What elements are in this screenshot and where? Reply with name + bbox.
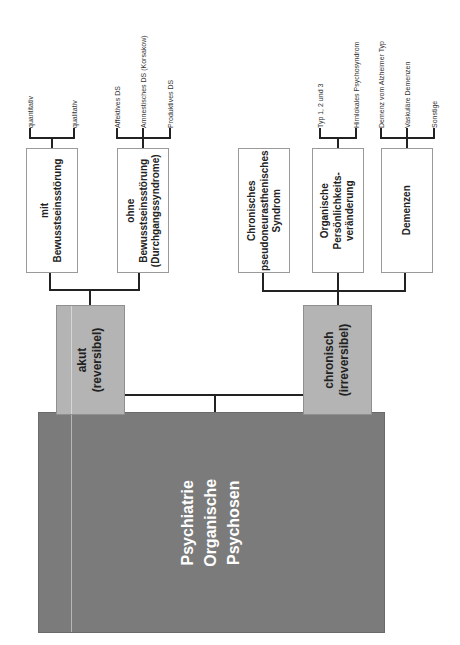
leaf-qualitativ: qualitativ [71,100,78,128]
node-demenzen: Demenzen [381,148,433,273]
node-label: mit Bewusstseinsstörung [40,159,65,263]
connector [337,138,339,148]
decorative-stripe [71,306,72,414]
root-subtitle-1: Organische [203,478,220,566]
leaf-vaskulaere-demenzen: Vaskuläre Demenzen [404,62,411,128]
connector [319,137,357,139]
leaf-hirnlokales-psychosyndrom: Hirnlokales Psychosyndrom [353,42,360,128]
connector [29,128,31,138]
decorative-stripe [71,413,72,632]
leaf-sonstige: Sonstige [431,101,438,128]
connector [138,273,140,290]
connector [262,290,406,292]
root-subtitle-2: Psychosen [226,480,243,564]
node-chronisch: chronisch (irreversibel) [303,305,372,415]
connector [49,273,51,290]
node-mit-bewusstseinsstoerung: mit Bewusstseinsstörung [26,148,78,273]
connector [355,128,357,138]
connector [116,128,118,138]
leaf-amnestisches-ds: Amnestisches DS (Korsakow) [140,35,147,128]
node-chronisch-label: chronisch (irreversibel) [323,324,353,397]
node-ohne-bewusstseinsstoerung: ohne Bewusstseinsstörung (Durchgangssynd… [117,148,169,273]
node-akut: akut (reversibel) [56,305,125,415]
connector [433,128,435,138]
connector [116,137,171,139]
connector [337,273,339,305]
connector [169,128,171,138]
leaf-quantitativ: quantitativ [27,96,34,128]
connector [49,289,140,291]
leaf-demenz-alzheimer: Demenz vom Alzheimer Typ [378,41,385,128]
connector [73,128,75,138]
connector [319,128,321,138]
connector [89,290,91,305]
connector [29,137,75,139]
connector [51,138,53,148]
leaf-affektives-ds: Affektives DS [114,86,121,128]
connector [404,273,406,291]
leaf-typ-1-2-3: Typ 1, 2 und 3 [317,84,324,128]
node-label: Organische Persönlichkeits- veränderung [319,172,357,249]
node-organische-persoenlichkeitsveraenderung: Organische Persönlichkeits- veränderung [312,148,364,273]
connector [262,273,264,291]
node-label: ohne Bewusstseinsstörung (Durchgangssynd… [124,154,162,267]
connector [214,395,216,412]
connector [380,128,382,138]
root-title: Psychiatrie [180,480,197,565]
root-label: PsychiatrieOrganischePsychosen [177,478,247,566]
connector [380,137,435,139]
node-label: Chronisches pseudoneurasthenisches Syndr… [245,150,283,271]
node-akut-label: akut (reversibel) [75,328,105,393]
node-label: Demenzen [401,185,414,235]
leaf-produktives-ds: Produktives DS [167,80,174,128]
node-chronisches-syndrom: Chronisches pseudoneurasthenisches Syndr… [238,148,290,273]
root-node-organische-psychosen: PsychiatrieOrganischePsychosen [38,412,385,633]
